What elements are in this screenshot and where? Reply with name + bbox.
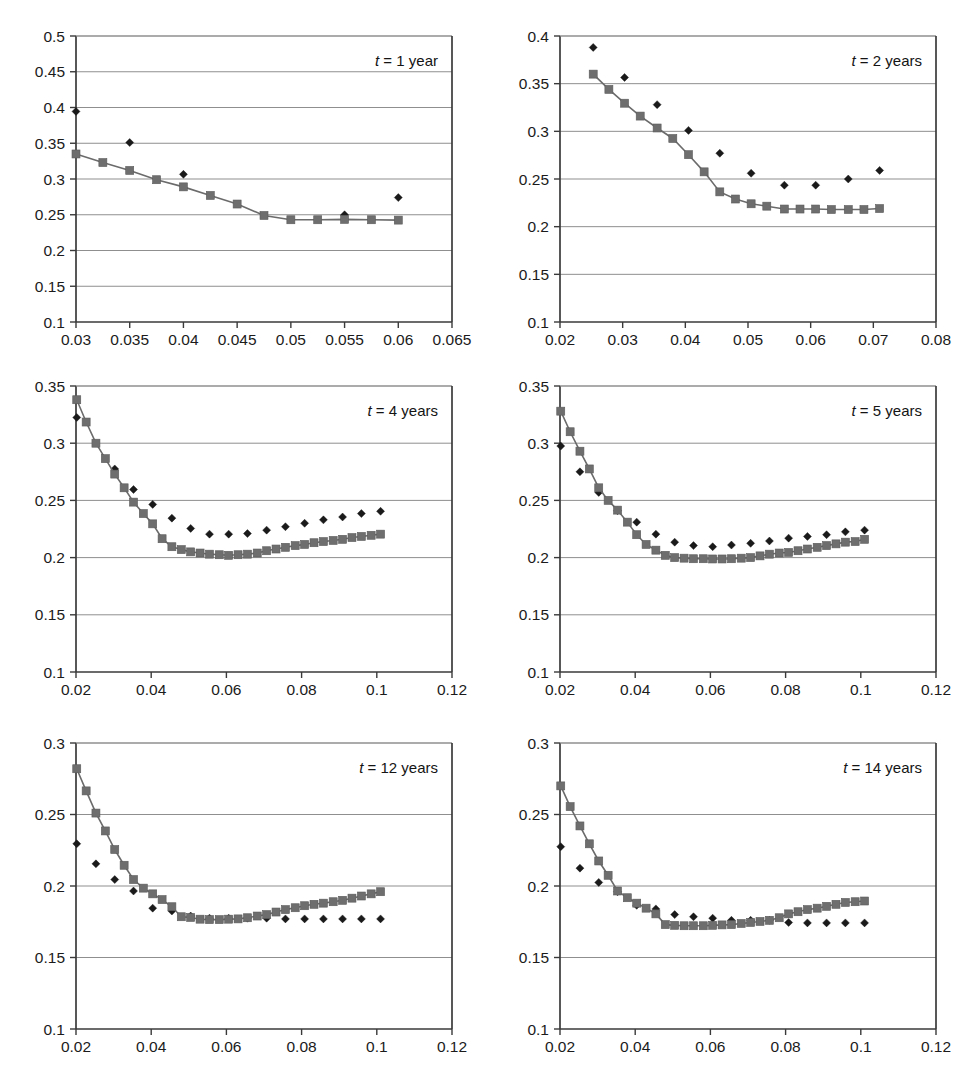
y-tick-label: 0.15 [35, 278, 65, 295]
panel-title: t = 14 years [843, 759, 922, 776]
data-point-square [196, 549, 204, 557]
data-point-square [101, 455, 109, 463]
series-line [77, 769, 381, 920]
panel-title-rest: = 4 years [372, 402, 438, 419]
data-point-diamond [576, 864, 584, 872]
y-tick-label: 0.2 [43, 878, 65, 895]
data-point-square [794, 908, 802, 916]
data-point-square [813, 543, 821, 551]
data-point-diamond [357, 915, 365, 923]
data-point-square [576, 822, 584, 830]
data-point-diamond [319, 516, 327, 524]
y-tick-label: 0.35 [35, 378, 65, 395]
data-point-square [623, 894, 631, 902]
data-point-diamond [785, 534, 793, 542]
x-tick-label: 0.02 [545, 331, 575, 348]
y-tick-label: 0.3 [43, 435, 65, 452]
data-point-square [253, 912, 261, 920]
data-point-square [652, 910, 660, 918]
data-point-square [716, 188, 724, 196]
data-point-diamond [823, 919, 831, 927]
y-axis-ticks: 0.10.150.20.250.3 [35, 735, 76, 1038]
data-point-square [291, 542, 299, 550]
data-point-diamond [92, 860, 100, 868]
data-point-square [120, 861, 128, 869]
data-point-diamond [130, 486, 138, 494]
y-tick-label: 0.1 [43, 314, 65, 331]
chart-panel-panel-t-12-years: 0.10.150.20.250.30.020.040.060.080.10.12… [0, 710, 484, 1065]
x-tick-label: 0.06 [695, 681, 725, 698]
x-tick-label: 0.02 [61, 681, 91, 698]
x-tick-label: 0.1 [850, 681, 872, 698]
data-point-diamond [301, 915, 309, 923]
data-point-diamond [243, 530, 251, 538]
data-point-square [177, 913, 185, 921]
panel-title: t = 12 years [359, 759, 438, 776]
y-tick-label: 0.3 [43, 735, 65, 752]
data-point-square [812, 205, 820, 213]
data-point-diamond [844, 175, 852, 183]
data-point-square [709, 921, 717, 929]
data-point-square [699, 922, 707, 930]
x-axis-ticks: 0.020.040.060.080.10.12 [61, 672, 467, 698]
data-point-square [803, 545, 811, 553]
y-tick-label: 0.4 [43, 99, 65, 116]
y-tick-label: 0.2 [43, 242, 65, 259]
data-point-square [727, 921, 735, 929]
x-tick-label: 0.1 [850, 1038, 872, 1055]
data-point-diamond [876, 166, 884, 174]
data-point-square [319, 538, 327, 546]
x-tick-label: 0.04 [620, 1038, 651, 1055]
data-point-square [263, 911, 271, 919]
data-point-square [832, 540, 840, 548]
data-point-square [348, 894, 356, 902]
x-tick-label: 0.12 [921, 681, 951, 698]
data-point-diamond [709, 543, 717, 551]
data-point-square [319, 899, 327, 907]
series-model-fit [72, 150, 402, 224]
data-point-square [763, 202, 771, 210]
data-point-square [82, 418, 90, 426]
data-point-square [765, 916, 773, 924]
x-tick-label: 0.08 [771, 1038, 801, 1055]
data-point-square [111, 846, 119, 854]
data-point-square [671, 554, 679, 562]
data-point-square [653, 124, 661, 132]
y-tick-label: 0.3 [527, 123, 549, 140]
data-point-square [689, 555, 697, 563]
data-point-square [823, 902, 831, 910]
data-point-diamond [780, 181, 788, 189]
data-point-square [187, 548, 195, 556]
data-point-square [281, 906, 289, 914]
data-point-square [272, 908, 280, 916]
data-point-square [130, 498, 138, 506]
data-point-diamond [281, 915, 289, 923]
panel-title: t = 5 years [852, 402, 922, 419]
data-point-diamond [319, 915, 327, 923]
data-point-diamond [225, 530, 233, 538]
x-tick-label: 0.02 [545, 1038, 575, 1055]
multi-panel-figure: 0.10.150.20.250.30.350.40.450.50.030.035… [0, 0, 968, 1065]
x-tick-label: 0.045 [218, 331, 257, 348]
data-point-square [310, 900, 318, 908]
data-point-diamond [653, 101, 661, 109]
y-tick-label: 0.15 [519, 949, 549, 966]
y-tick-label: 0.3 [43, 171, 65, 188]
data-point-square [287, 216, 295, 224]
data-point-square [357, 532, 365, 540]
data-point-square [111, 470, 119, 478]
x-tick-label: 0.03 [608, 331, 638, 348]
data-point-square [700, 168, 708, 176]
y-tick-label: 0.1 [527, 314, 549, 331]
data-point-square [756, 552, 764, 560]
data-point-square [785, 910, 793, 918]
series-model-fit [557, 782, 869, 930]
panel-title: t = 4 years [368, 402, 438, 419]
gridlines [76, 36, 452, 286]
series-line [561, 411, 865, 559]
data-point-square [168, 903, 176, 911]
data-point-square [310, 539, 318, 547]
x-tick-label: 0.12 [437, 1038, 467, 1055]
data-point-square [699, 555, 707, 563]
data-point-diamond [671, 538, 679, 546]
